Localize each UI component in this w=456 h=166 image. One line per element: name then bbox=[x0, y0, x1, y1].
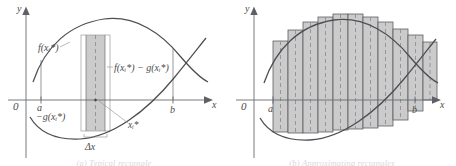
y-axis-label: y bbox=[16, 3, 22, 14]
panel-approximating-rectangles: 0 a b x y (b) Approximating rectangles bbox=[228, 0, 456, 166]
y-axis bbox=[250, 7, 257, 159]
y-axis bbox=[22, 7, 29, 159]
x-axis-label: x bbox=[211, 99, 217, 110]
sample-point-dot bbox=[94, 99, 97, 102]
height-difference-label: f(xᵢ*) − g(xᵢ*) bbox=[114, 62, 170, 74]
tick-label-b: b bbox=[170, 104, 175, 115]
tick-label-a: a bbox=[268, 103, 273, 114]
width-label: Δx bbox=[84, 141, 96, 152]
panel-a-plot: f(xᵢ*) f(xᵢ*) − g(xᵢ*) −g(xᵢ*) xᵢ* Δx 0 … bbox=[0, 0, 228, 166]
typical-rectangle bbox=[81, 35, 110, 131]
upper-function-label: f(xᵢ*) bbox=[38, 42, 59, 54]
origin-label: 0 bbox=[13, 100, 19, 112]
panel-b-plot: 0 a b x y bbox=[228, 0, 456, 166]
origin-label: 0 bbox=[241, 100, 247, 112]
tick-label-b: b bbox=[412, 104, 417, 115]
figure-container: f(xᵢ*) f(xᵢ*) − g(xᵢ*) −g(xᵢ*) xᵢ* Δx 0 … bbox=[0, 0, 456, 166]
panel-b-caption: (b) Approximating rectangles bbox=[228, 158, 456, 166]
lower-curve-g bbox=[30, 38, 206, 139]
sample-point-label: xᵢ* bbox=[127, 120, 139, 130]
x-axis-label: x bbox=[439, 99, 445, 110]
approximating-rectangles bbox=[273, 14, 437, 133]
y-axis-label: y bbox=[244, 3, 250, 14]
tick-label-a: a bbox=[37, 102, 42, 113]
panel-typical-rectangle: f(xᵢ*) f(xᵢ*) − g(xᵢ*) −g(xᵢ*) xᵢ* Δx 0 … bbox=[0, 0, 228, 166]
panel-a-caption: (a) Typical rectangle bbox=[0, 158, 228, 166]
